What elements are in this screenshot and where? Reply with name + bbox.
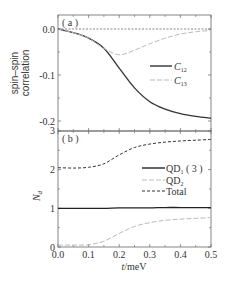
series-line-c13 [58,29,211,55]
series-line-c12 [58,29,211,118]
ylabel-a-line1: spin–spin [9,52,20,94]
legend-a: C12 C13 [150,61,187,87]
x-tick-label: 0.5 [205,249,218,260]
panel-a-series [58,29,211,118]
svg-text:C13: C13 [174,75,187,87]
chart-figure: 0.00.10.20.30.40.50.0-0.1-0.23210 ( a ) … [0,0,230,284]
svg-text:Total: Total [166,186,187,197]
ylabel-a-line2: correlation [20,50,31,97]
panel-b-series [58,139,211,245]
x-tick-label: 0.3 [144,249,157,260]
x-tick-label: 0.2 [113,249,126,260]
svg-text:QD1 ( 3 ): QD1 ( 3 ) [166,163,203,175]
y-tick-label-a: -0.1 [39,70,55,81]
svg-text:C12: C12 [174,61,187,73]
panel-b-label: ( b ) [62,133,79,145]
y-tick-label-b: 2 [50,164,55,175]
x-axis-title: t/meV [122,261,148,272]
legend-b: QD1 ( 3 ) QD2 Total [142,163,203,197]
panel-a-ylabel: spin–spin correlation [9,50,31,97]
panel-a-label: ( a ) [62,17,78,29]
ylabel-b-sub: d [36,190,44,194]
y-tick-label-b: 3 [50,125,55,136]
x-tick-label: 0.4 [174,249,187,260]
panel-b-ylabel: Nd [31,190,44,202]
y-tick-label-b: 0 [50,242,55,253]
panel-a-frame [58,15,211,131]
series-line-qd2 [58,218,211,246]
x-tick-label: 0.1 [82,249,95,260]
series-line-qd1-3- [58,207,211,208]
y-tick-label-a: 0.0 [43,24,56,35]
y-tick-label-b: 1 [50,203,55,214]
svg-text:Nd: Nd [31,190,44,202]
panel-b-frame [58,131,211,247]
